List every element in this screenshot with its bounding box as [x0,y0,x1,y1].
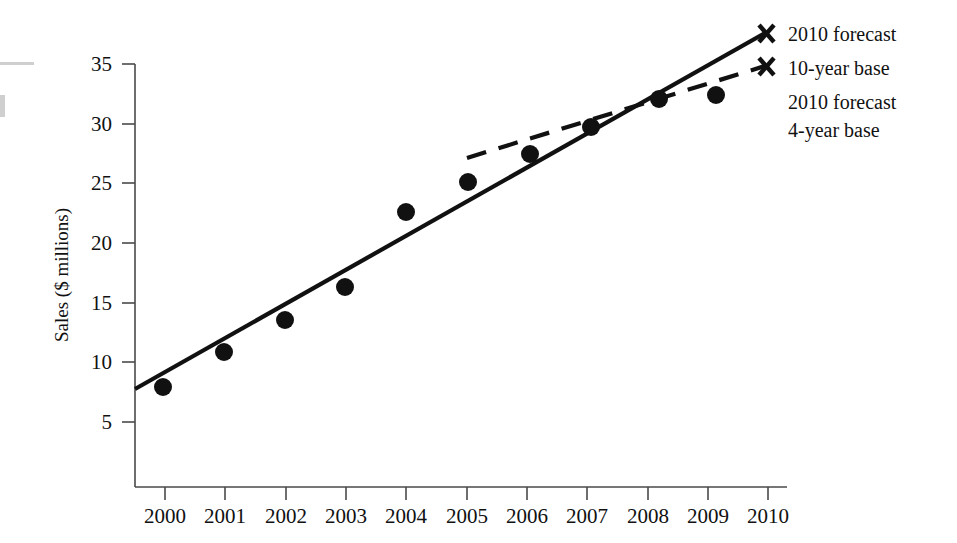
y-axis: 35 30 25 20 15 10 5 Sales ($ millions) [51,52,135,487]
trend-line-4-year-base [467,66,765,158]
data-point-2007 [582,118,600,136]
x-axis: 2000 2001 2002 2003 2004 2005 2006 2007 … [135,487,789,528]
y-tick-label-15: 15 [91,291,112,315]
data-points [154,86,725,396]
page-edge-artifact-bottom [0,95,5,117]
y-tick-label-20: 20 [91,231,112,255]
x-tick-label-2003: 2003 [325,504,367,528]
sales-forecast-chart: 35 30 25 20 15 10 5 Sales ($ millions) 2… [0,0,957,543]
annotation-4-year-line1: 2010 forecast [788,91,897,113]
page-edge-artifact-top [0,62,34,65]
trend-line-10-year-base [135,33,765,389]
y-tick-label-35: 35 [91,52,112,76]
data-point-2008 [650,90,668,108]
data-point-2000 [154,378,172,396]
x-tick-label-2010: 2010 [747,504,789,528]
data-point-2004 [397,203,415,221]
y-tick-label-25: 25 [91,171,112,195]
annotation-4-year-line2: 4-year base [788,119,880,142]
x-tick-label-2007: 2007 [566,504,608,528]
annotation-10-year-line2: 10-year base [788,57,890,80]
data-point-2002 [276,311,294,329]
x-tick-label-2004: 2004 [385,504,428,528]
x-tick-label-2002: 2002 [265,504,307,528]
chart-page: 35 30 25 20 15 10 5 Sales ($ millions) 2… [0,0,957,543]
x-tick-label-2008: 2008 [627,504,669,528]
annotation-10-year-base: 2010 forecast 10-year base [788,23,897,80]
annotation-10-year-line1: 2010 forecast [788,23,897,45]
y-axis-title: Sales ($ millions) [51,208,73,342]
data-point-2006 [521,145,539,163]
x-tick-label-2006: 2006 [506,504,548,528]
x-tick-label-2009: 2009 [687,504,729,528]
data-point-2005 [459,173,477,191]
data-point-2009 [707,86,725,104]
data-point-2001 [215,343,233,361]
annotation-4-year-base: 2010 forecast 4-year base [788,91,897,142]
y-tick-label-30: 30 [91,112,112,136]
y-tick-label-10: 10 [91,350,112,374]
y-tick-label-5: 5 [102,410,113,434]
data-point-2003 [336,278,354,296]
x-tick-label-2005: 2005 [446,504,488,528]
x-tick-label-2001: 2001 [204,504,246,528]
x-tick-label-2000: 2000 [144,504,186,528]
